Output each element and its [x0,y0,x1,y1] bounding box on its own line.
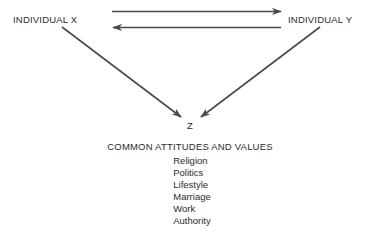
list-item: Religion [173,155,211,167]
common-values-heading: COMMON ATTITUDES AND VALUES [0,141,380,153]
common-values-block: COMMON ATTITUDES AND VALUES Religion Pol… [0,141,380,228]
arrow-y-to-z [201,27,320,117]
list-item: Politics [173,167,211,179]
list-item: Authority [173,215,211,227]
common-values-list: Religion Politics Lifestyle Marriage Wor… [169,155,211,227]
arrow-x-to-z [62,27,181,117]
list-item: Marriage [173,191,211,203]
node-label-z: Z [0,120,380,131]
list-item: Lifestyle [173,179,211,191]
node-label-individual-x: INDIVIDUAL X [13,14,77,25]
relationship-diagram: INDIVIDUAL X INDIVIDUAL Y Z COMMON ATTIT… [0,0,380,239]
node-label-individual-y: INDIVIDUAL Y [288,14,352,25]
list-item: Work [173,203,211,215]
